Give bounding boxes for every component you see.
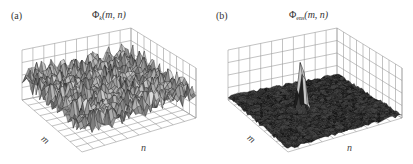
- surface-plot-a: [0, 0, 206, 164]
- surface-plot-b: [206, 0, 412, 164]
- axis-label-n: n: [347, 142, 352, 153]
- axis-label-n: n: [141, 142, 146, 153]
- panel-b: (b) Φens(m, n) m n: [206, 0, 412, 164]
- panel-a: (a) Φk(m, n) m n: [0, 0, 206, 164]
